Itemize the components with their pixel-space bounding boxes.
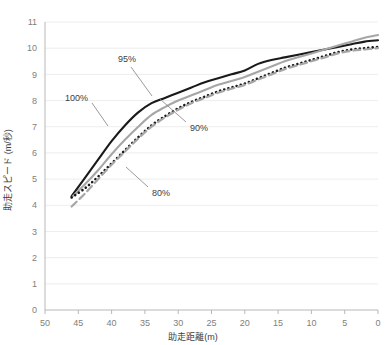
y-tick-label-9: 9: [32, 70, 37, 80]
x-tick-label-10: 10: [306, 318, 316, 328]
y-tick-label-10: 10: [27, 43, 37, 53]
x-tick-label-30: 30: [173, 318, 183, 328]
series-annotation-100pct: 100%: [65, 93, 88, 103]
y-tick-label-7: 7: [32, 122, 37, 132]
chart-background: [0, 0, 386, 345]
chart-container: 50454035302520151050 01234567891011 100%…: [0, 0, 386, 345]
x-tick-label-0: 0: [375, 318, 380, 328]
series-annotation-95pct: 95%: [118, 54, 136, 64]
x-tick-label-45: 45: [73, 318, 83, 328]
x-tick-label-20: 20: [240, 318, 250, 328]
series-annotation-90pct: 90%: [190, 123, 208, 133]
y-axis-title: 助走スピード (m/秒): [2, 129, 13, 211]
y-tick-label-6: 6: [32, 148, 37, 158]
x-tick-label-40: 40: [107, 318, 117, 328]
x-tick-label-50: 50: [40, 318, 50, 328]
runup-speed-line-chart: 50454035302520151050 01234567891011 100%…: [0, 0, 386, 345]
series-annotation-80pct: 80%: [152, 188, 170, 198]
y-tick-label-0: 0: [32, 305, 37, 315]
x-tick-label-5: 5: [342, 318, 347, 328]
y-tick-label-11: 11: [28, 17, 37, 27]
y-tick-label-5: 5: [32, 174, 37, 184]
y-tick-label-1: 1: [32, 279, 37, 289]
x-tick-label-15: 15: [273, 318, 283, 328]
y-tick-label-8: 8: [32, 96, 37, 106]
y-tick-label-3: 3: [32, 227, 37, 237]
x-tick-label-35: 35: [140, 318, 150, 328]
x-axis-title: 助走距離(m): [168, 331, 218, 342]
y-tick-label-2: 2: [32, 253, 37, 263]
y-tick-label-4: 4: [32, 200, 37, 210]
x-tick-label-25: 25: [206, 318, 216, 328]
